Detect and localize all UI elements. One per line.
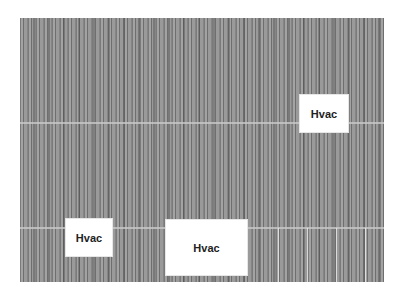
hvac-label-text: Hvac <box>76 232 102 244</box>
hvac-label-text: Hvac <box>311 108 337 120</box>
hvac-label: Hvac <box>66 219 112 256</box>
hvac-label: Hvac <box>300 95 348 132</box>
hvac-label: Hvac <box>166 220 247 275</box>
hvac-label-text: Hvac <box>193 242 219 254</box>
roof-panel-lines <box>250 228 384 282</box>
